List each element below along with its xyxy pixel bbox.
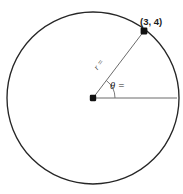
radius-length-label: r = — [91, 57, 106, 72]
center-point-marker — [90, 95, 96, 101]
angle-theta-label: θ = — [110, 80, 125, 91]
point-marker-3-4 — [141, 28, 148, 35]
circle-diagram-svg: (3, 4) θ = r = — [0, 0, 183, 194]
circle-diagram-canvas: (3, 4) θ = r = — [0, 0, 183, 194]
point-coordinate-label: (3, 4) — [140, 16, 162, 27]
